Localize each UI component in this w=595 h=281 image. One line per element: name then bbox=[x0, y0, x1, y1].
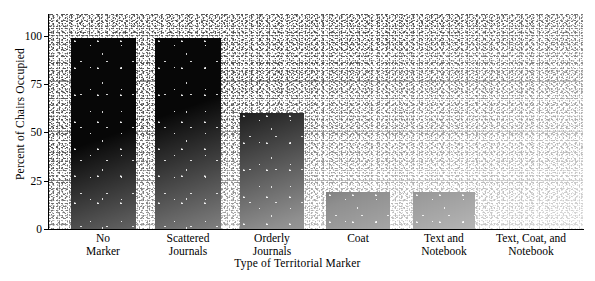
y-tick-label-75: 75 bbox=[14, 79, 42, 89]
y-tick-label-25: 25 bbox=[14, 176, 42, 186]
bar-3 bbox=[326, 192, 390, 229]
y-tick-label-100: 100 bbox=[14, 31, 42, 41]
bar-1 bbox=[155, 38, 221, 229]
x-axis-title: Type of Territorial Marker bbox=[0, 257, 595, 269]
x-tick-label-5: Text, Coat, and Notebook bbox=[471, 232, 591, 257]
bar-4 bbox=[413, 192, 475, 229]
plot-area bbox=[49, 14, 583, 229]
y-tick-label-0: 0 bbox=[14, 224, 42, 234]
x-axis-line bbox=[48, 229, 584, 230]
x-tick-label-3: Coat bbox=[318, 232, 398, 245]
bar-0 bbox=[71, 38, 136, 229]
y-tick-label-50: 50 bbox=[14, 127, 42, 137]
y-axis-ticks: 100 75 50 25 0 bbox=[14, 0, 42, 281]
x-tick-label-1: Scattered Journals bbox=[141, 232, 236, 257]
x-tick-label-2: Orderly Journals bbox=[227, 232, 317, 257]
x-tick-label-0: No Marker bbox=[58, 232, 148, 257]
y-axis-line bbox=[48, 14, 49, 230]
bar-2 bbox=[240, 113, 304, 229]
chart-figure: Percent of Chairs Occupied 100 75 50 25 … bbox=[0, 0, 595, 281]
